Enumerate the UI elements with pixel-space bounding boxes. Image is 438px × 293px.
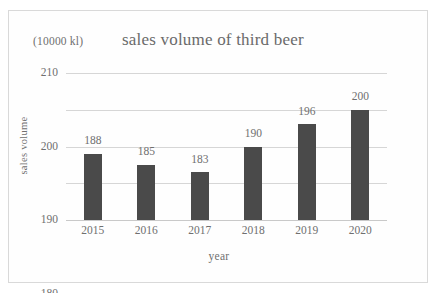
x-axis-tick-label: 2020 <box>349 225 372 237</box>
chart-title: sales volume of third beer <box>122 30 304 50</box>
bar-group: 1902018 <box>227 73 281 220</box>
unit-note: (10000 kl) <box>33 35 83 47</box>
bar <box>244 147 262 221</box>
y-axis-tick-label: 200 <box>41 141 58 153</box>
bar <box>191 172 209 220</box>
bar-group: 1852016 <box>120 73 174 220</box>
bar-group: 2002020 <box>334 73 388 220</box>
chart-figure: (10000 kl) sales volume of third beer sa… <box>0 0 438 293</box>
x-axis-tick-label: 2016 <box>135 225 158 237</box>
plot-area: 210200190180170 188201518520161832017190… <box>66 73 387 220</box>
bar <box>351 110 369 220</box>
bar-value-label: 196 <box>298 106 315 118</box>
x-axis-tick-label: 2019 <box>295 225 318 237</box>
x-axis-label: year <box>0 250 438 262</box>
x-axis-tick-label: 2018 <box>242 225 265 237</box>
y-axis-tick-label: 210 <box>41 67 58 79</box>
x-axis-tick-label: 2017 <box>188 225 211 237</box>
x-axis-tick-label: 2015 <box>81 225 104 237</box>
bar-value-label: 190 <box>245 128 262 140</box>
bar-group: 1832017 <box>173 73 227 220</box>
bar <box>137 165 155 220</box>
bar-series: 1882015185201618320171902018196201920020… <box>66 73 387 220</box>
bar <box>84 154 102 220</box>
y-axis-label: sales volume <box>18 101 29 191</box>
y-axis-tick-label: 180 <box>41 288 58 293</box>
bar-value-label: 183 <box>191 154 208 166</box>
bar-group: 1882015 <box>66 73 120 220</box>
bar-value-label: 188 <box>84 135 101 147</box>
y-axis-tick-label: 190 <box>41 214 58 226</box>
bar-value-label: 185 <box>138 146 155 158</box>
gridline: 170 <box>66 220 387 221</box>
bar-value-label: 200 <box>352 91 369 103</box>
bar <box>298 124 316 220</box>
bar-group: 1962019 <box>280 73 334 220</box>
